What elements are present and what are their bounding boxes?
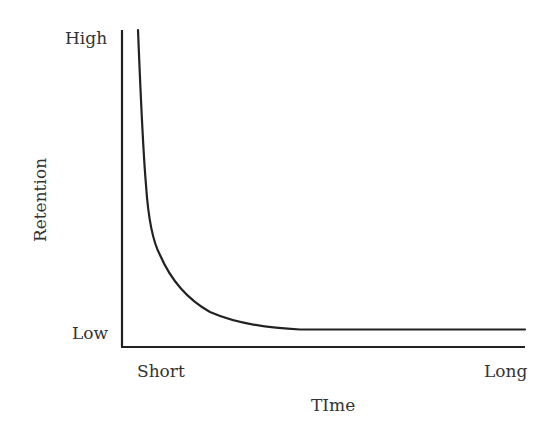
chart-plot-area [0, 0, 552, 436]
y-tick-high: High [65, 28, 107, 48]
x-tick-short: Short [137, 361, 185, 381]
x-tick-long: Long [484, 361, 527, 381]
x-axis-title: TIme [311, 395, 355, 415]
y-tick-low: Low [72, 323, 108, 343]
y-axis-title: Retention [30, 158, 50, 242]
retention-curve [138, 30, 525, 330]
